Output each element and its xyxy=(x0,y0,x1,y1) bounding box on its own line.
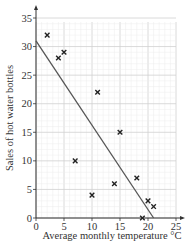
y-tick-label: 0 xyxy=(27,213,32,224)
y-axis-label: Sales of hot water bottles xyxy=(4,65,15,171)
tick-labels: 051015202505101520253035 xyxy=(22,13,182,233)
y-tick-label: 15 xyxy=(22,127,33,138)
y-tick-label: 25 xyxy=(22,70,33,81)
y-tick-label: 30 xyxy=(22,41,33,52)
y-tick-label: 20 xyxy=(22,98,33,109)
y-tick-label: 35 xyxy=(22,13,33,24)
x-tick-label: 0 xyxy=(33,221,38,232)
y-tick-label: 10 xyxy=(22,155,33,166)
x-axis-label: Average monthly temperature °C xyxy=(43,230,182,241)
y-tick-label: 5 xyxy=(27,184,32,195)
grid xyxy=(36,18,176,218)
scatter-chart: 051015202505101520253035 Average monthly… xyxy=(0,0,185,244)
line-of-best-fit xyxy=(36,41,154,218)
